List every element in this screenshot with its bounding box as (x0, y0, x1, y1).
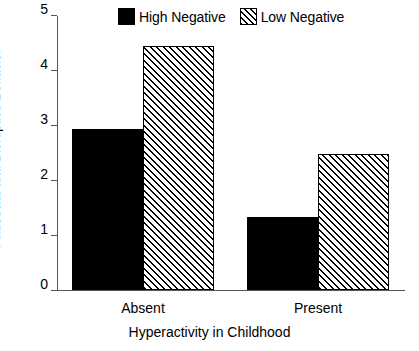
y-tick-label-0: 0 (40, 277, 48, 291)
bar-present-high-negative (247, 217, 318, 290)
bar-absent-high-negative (72, 129, 143, 290)
x-axis-title: Hyperactivity in Childhood (0, 325, 419, 339)
y-tick-label-4: 4 (40, 57, 48, 71)
y-axis-line (57, 16, 58, 291)
y-axis-title-line-2: Antisocial and Disruptive Behavior (0, 0, 4, 298)
bar-present-low-negative (318, 154, 389, 290)
y-tick-0 (51, 290, 57, 291)
y-tick-3 (51, 125, 57, 126)
y-tick-label-3: 3 (40, 112, 48, 126)
y-tick-label-5: 5 (40, 2, 48, 16)
y-tick-4 (51, 70, 57, 71)
y-tick-1 (51, 235, 57, 236)
y-axis-title: Scores on Parent Ratings of Antisocial a… (0, 0, 4, 298)
y-tick-label-2: 2 (40, 167, 48, 181)
bar-chart-figure: High Negative Low Negative 0 1 2 3 4 5 A… (0, 0, 419, 351)
x-category-label-present: Present (294, 301, 342, 315)
y-tick-label-1: 1 (40, 222, 48, 236)
x-category-label-absent: Absent (121, 301, 165, 315)
y-tick-5 (51, 15, 57, 16)
x-axis-line (57, 290, 405, 291)
plot-area: 0 1 2 3 4 5 (57, 16, 405, 291)
bar-absent-low-negative (143, 46, 214, 290)
y-tick-2 (51, 180, 57, 181)
